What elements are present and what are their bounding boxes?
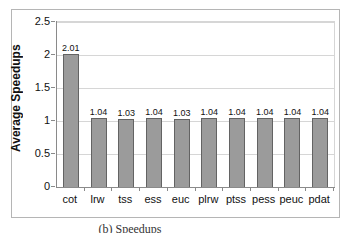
x-tick-mark (250, 187, 251, 191)
y-tick-mark (51, 120, 55, 121)
bar-plrw (201, 118, 217, 187)
x-tick-label-pess: pess (250, 193, 278, 205)
y-tick-label: 1 (20, 115, 50, 126)
y-tick-label: 2.5 (20, 16, 50, 27)
bar-pdat (312, 118, 328, 187)
y-tick-mark (51, 186, 55, 187)
gridline-y-1.5 (57, 88, 334, 89)
bar-pess (257, 118, 273, 187)
x-tick-label-ess: ess (139, 193, 167, 205)
y-tick-label: 1.5 (20, 82, 50, 93)
gridline-y-2.5 (57, 22, 334, 23)
bar-peuc (284, 118, 300, 187)
figure-caption: (b) Speedups (0, 222, 260, 233)
chart-frame: Average Speedups 2.011.041.031.041.031.0… (11, 9, 340, 218)
y-tick-label: 0 (20, 181, 50, 192)
x-tick-mark (195, 187, 196, 191)
bar-euc (174, 119, 190, 187)
bar-lrw (91, 118, 107, 187)
x-tick-mark (333, 187, 334, 191)
bar-value-label: 1.04 (196, 107, 224, 117)
x-tick-mark (111, 187, 112, 191)
figure: Average Speedups 2.011.041.031.041.031.0… (0, 0, 350, 233)
plot-area: 2.011.041.031.041.031.041.041.041.041.04 (56, 21, 335, 188)
x-tick-label-pdat: pdat (305, 193, 333, 205)
bar-cot (63, 54, 79, 187)
y-tick-mark (51, 54, 55, 55)
x-tick-label-plrw: plrw (195, 193, 223, 205)
x-tick-label-cot: cot (56, 193, 84, 205)
bar-value-label: 1.03 (112, 108, 140, 118)
x-tick-mark (167, 187, 168, 191)
bar-ptss (229, 118, 245, 187)
x-tick-label-tss: tss (111, 193, 139, 205)
bar-ess (146, 118, 162, 187)
bar-value-label: 1.04 (223, 107, 251, 117)
bar-tss (118, 119, 134, 187)
x-tick-label-ptss: ptss (222, 193, 250, 205)
x-tick-label-euc: euc (167, 193, 195, 205)
bar-value-label: 1.04 (85, 107, 113, 117)
x-tick-label-lrw: lrw (84, 193, 112, 205)
bar-value-label: 1.04 (279, 107, 307, 117)
bar-value-label: 1.04 (140, 107, 168, 117)
bar-value-label: 1.04 (251, 107, 279, 117)
gridline-y-2 (57, 55, 334, 56)
x-tick-mark (222, 187, 223, 191)
y-tick-mark (51, 21, 55, 22)
y-tick-mark (51, 153, 55, 154)
x-tick-label-peuc: peuc (278, 193, 306, 205)
x-tick-mark (139, 187, 140, 191)
y-axis-title: Average Speedups (8, 10, 24, 186)
x-tick-mark (278, 187, 279, 191)
bar-value-label: 1.04 (306, 107, 334, 117)
y-tick-label: 0.5 (20, 148, 50, 159)
bar-value-label: 2.01 (57, 43, 85, 53)
x-axis-line (56, 187, 335, 188)
y-tick-label: 2 (20, 49, 50, 60)
x-tick-mark (84, 187, 85, 191)
x-tick-mark (305, 187, 306, 191)
bar-value-label: 1.03 (168, 108, 196, 118)
y-tick-mark (51, 87, 55, 88)
